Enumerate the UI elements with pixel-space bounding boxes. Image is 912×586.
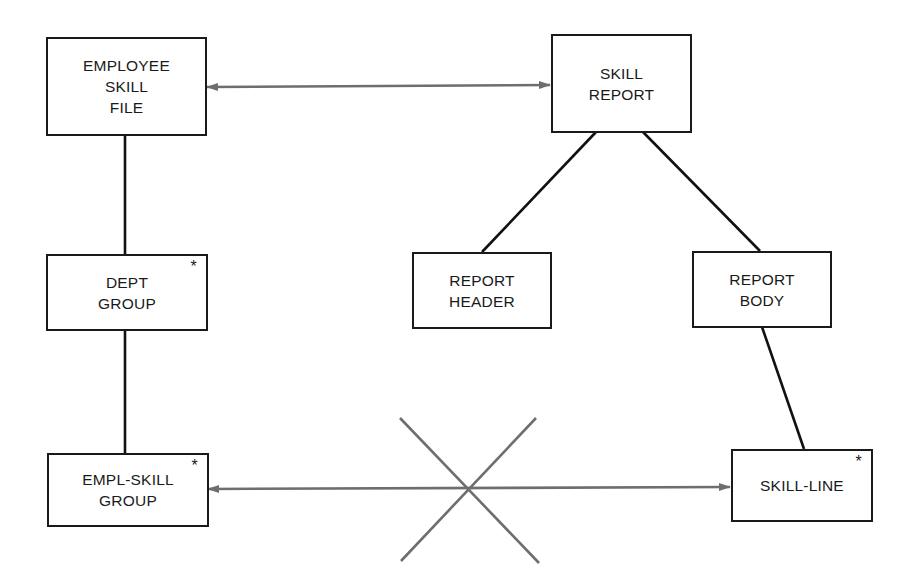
node-empl-skill-group: * EMPL-SKILL GROUP [47, 453, 209, 527]
iteration-asterisk-icon: * [192, 458, 198, 474]
node-skill-report: SKILL REPORT [551, 34, 692, 133]
node-report-header: REPORT HEADER [412, 252, 552, 329]
node-label-line: EMPL-SKILL [82, 469, 174, 490]
node-label-line: GROUP [99, 490, 157, 511]
iteration-asterisk-icon: * [856, 454, 862, 470]
iteration-asterisk-icon: * [191, 259, 197, 275]
node-label-line: REPORT [729, 269, 795, 290]
node-label-line: SKILL [105, 76, 148, 97]
node-label-line: EMPLOYEE [83, 55, 170, 76]
node-label-line: BODY [740, 290, 785, 311]
correspondence-arrow-file-report [207, 85, 550, 87]
node-label-line: DEPT [106, 272, 148, 293]
node-dept-group: * DEPT GROUP [46, 254, 208, 331]
node-report-body: REPORT BODY [692, 251, 832, 328]
node-label-line: SKILL [600, 63, 643, 84]
node-employee-skill-file: EMPLOYEE SKILL FILE [46, 37, 207, 136]
edge-skill-report-to-report-body [643, 132, 760, 251]
node-label-line: REPORT [589, 84, 655, 105]
node-skill-line: * SKILL-LINE [731, 449, 873, 522]
edge-report-body-to-skill-line [762, 327, 804, 449]
node-label-line: SKILL-LINE [760, 475, 844, 496]
node-label-line: FILE [110, 97, 144, 118]
node-label-line: GROUP [98, 293, 156, 314]
cross-out-icon [400, 418, 539, 563]
node-label-line: HEADER [449, 291, 515, 312]
edge-skill-report-to-report-header [482, 132, 596, 252]
node-label-line: REPORT [449, 270, 515, 291]
